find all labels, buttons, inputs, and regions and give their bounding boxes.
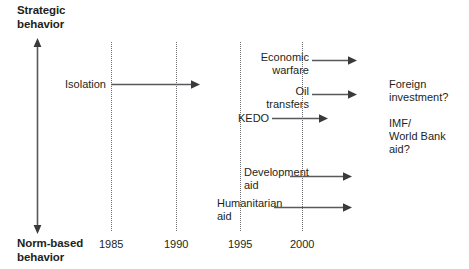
gridline-1985 — [111, 42, 112, 231]
tick-label-2000: 2000 — [290, 238, 314, 251]
flow-arrow-humanitarian-aid — [274, 203, 352, 212]
diagram-canvas: Strategic behavior Norm-based behavior 1… — [0, 0, 469, 269]
flow-label-isolation: Isolation — [33, 78, 106, 91]
flow-label-oil-transfers: Oil transfers — [235, 85, 309, 110]
axis-bottom-label: Norm-based behavior — [17, 237, 83, 264]
flow-arrow-oil-transfers — [312, 90, 357, 99]
axis-top-label: Strategic behavior — [17, 4, 65, 31]
side-note-foreign-investment: Foreign investment? — [389, 78, 448, 104]
flow-arrow-economic-warfare — [312, 56, 357, 65]
flow-arrow-development-aid — [290, 172, 352, 181]
flow-label-economic-warfare: Economic warfare — [235, 51, 309, 76]
tick-label-1990: 1990 — [164, 238, 188, 251]
tick-label-1995: 1995 — [228, 238, 252, 251]
side-note-imf-world-bank-aid: IMF/ World Bank aid? — [389, 117, 446, 155]
vertical-axis-arrow — [31, 38, 44, 234]
gridline-1990 — [176, 42, 177, 231]
tick-label-1985: 1985 — [99, 238, 123, 251]
flow-arrow-kedo — [272, 114, 328, 123]
flow-arrow-isolation — [111, 80, 200, 89]
